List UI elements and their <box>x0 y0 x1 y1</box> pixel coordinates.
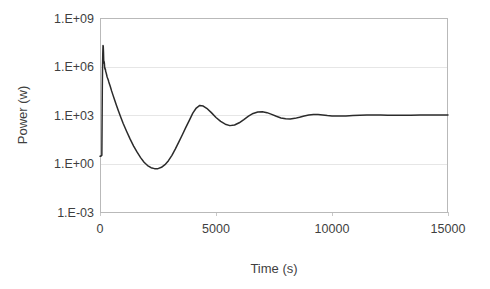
y-tick-label-0: 1.E+09 <box>54 12 94 26</box>
y-tick-label-2: 1.E+03 <box>54 109 94 123</box>
y-axis-title: Power (w) <box>15 86 30 145</box>
x-tick-label-3: 15000 <box>431 222 466 236</box>
chart-container: 1.E+091.E+061.E+031.E+001.E-03 050001000… <box>0 0 490 289</box>
power-vs-time-log-chart: 1.E+091.E+061.E+031.E+001.E-03 050001000… <box>0 0 490 289</box>
x-tick-label-0: 0 <box>97 222 104 236</box>
x-axis-title: Time (s) <box>250 261 297 276</box>
y-tick-label-3: 1.E+00 <box>54 157 94 171</box>
x-tick-label-2: 10000 <box>315 222 350 236</box>
y-tick-label-1: 1.E+06 <box>54 60 94 74</box>
x-tick-label-1: 5000 <box>202 222 230 236</box>
y-tick-label-4: 1.E-03 <box>57 206 94 220</box>
chart-background <box>0 0 490 289</box>
